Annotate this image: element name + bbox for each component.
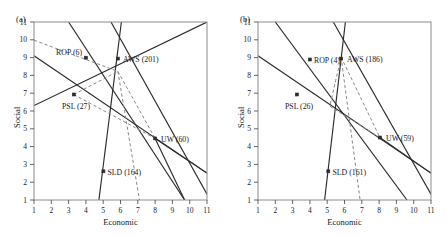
data-point-sld[interactable] (102, 170, 105, 173)
data-point-sld[interactable] (327, 170, 330, 173)
data-point-aws[interactable] (116, 57, 119, 60)
panel-a-xaxis: 1 2 3 4 5 6 7 8 9 10 11 (32, 200, 211, 215)
svg-text:5: 5 (101, 206, 105, 215)
svg-text:4: 4 (308, 206, 312, 215)
data-point-uw[interactable] (154, 137, 157, 140)
panel-b-xaxis: 1 2 3 4 5 6 7 8 9 10 11 (256, 200, 435, 215)
point-label-uw: UW (60) (161, 135, 189, 144)
line-solid (34, 22, 207, 106)
point-label-aws: AWS (201) (123, 55, 159, 64)
svg-text:2: 2 (247, 178, 251, 187)
point-label-rop: ROP (6) (56, 48, 82, 57)
svg-text:1: 1 (32, 206, 36, 215)
svg-text:1: 1 (247, 196, 251, 205)
svg-text:6: 6 (247, 107, 251, 116)
point-label-sld: SLD (164) (108, 168, 142, 177)
svg-text:6: 6 (23, 107, 27, 116)
svg-text:10: 10 (19, 35, 27, 44)
svg-text:3: 3 (23, 160, 27, 169)
svg-text:9: 9 (171, 206, 175, 215)
point-label-uw: UW (59) (386, 134, 414, 143)
line-dashed (341, 57, 360, 200)
svg-text:2: 2 (49, 206, 53, 215)
svg-text:8: 8 (153, 206, 157, 215)
data-point-aws[interactable] (340, 57, 343, 60)
svg-text:4: 4 (247, 142, 251, 151)
svg-text:7: 7 (247, 89, 251, 98)
svg-text:9: 9 (247, 53, 251, 62)
svg-text:8: 8 (247, 71, 251, 80)
data-point-psl[interactable] (72, 93, 75, 96)
panel-a-xlabel: Economic (34, 217, 207, 227)
point-label-sld: SLD (161) (333, 168, 367, 177)
svg-text:7: 7 (136, 206, 140, 215)
svg-text:11: 11 (203, 206, 211, 215)
svg-text:7: 7 (23, 89, 27, 98)
svg-text:6: 6 (343, 206, 347, 215)
data-point-rop[interactable] (308, 58, 311, 61)
svg-text:4: 4 (23, 142, 27, 151)
svg-text:10: 10 (410, 206, 418, 215)
svg-text:5: 5 (247, 124, 251, 133)
svg-text:1: 1 (23, 196, 27, 205)
svg-text:9: 9 (23, 53, 27, 62)
panel-b-ylabel: Social (236, 107, 246, 128)
svg-text:4: 4 (84, 206, 88, 215)
point-label-psl: PSL (27) (62, 102, 90, 111)
panel-a-ylabel: Social (12, 107, 22, 128)
svg-text:3: 3 (291, 206, 295, 215)
svg-text:11: 11 (427, 206, 435, 215)
point-label-aws: AWS (186) (347, 55, 383, 64)
panel-b-xlabel: Economic (258, 217, 431, 227)
svg-text:8: 8 (377, 206, 381, 215)
point-label-psl: PSL (26) (285, 102, 313, 111)
panel-b-plot: 1 2 3 4 5 6 7 8 9 10 11 1 2 3 4 5 6 7 8 (224, 0, 447, 237)
svg-text:10: 10 (186, 206, 194, 215)
svg-text:7: 7 (360, 206, 364, 215)
point-label-rop: ROP (4) (314, 56, 340, 65)
svg-text:6: 6 (119, 206, 123, 215)
svg-text:2: 2 (273, 206, 277, 215)
panel-a-plot: 1 2 3 4 5 6 7 8 9 10 11 1 2 3 4 5 6 7 (0, 0, 223, 237)
panel-a: (a) 1 (0, 0, 223, 237)
data-point-uw[interactable] (379, 136, 382, 139)
panel-b-points: ROP (4) AWS (186) PSL (26) UW (59) SLD (… (285, 55, 414, 177)
figure-container: (a) 1 (0, 0, 447, 237)
svg-text:10: 10 (243, 35, 251, 44)
svg-text:1: 1 (256, 206, 260, 215)
svg-text:3: 3 (67, 206, 71, 215)
data-point-psl[interactable] (295, 93, 298, 96)
svg-text:9: 9 (395, 206, 399, 215)
svg-text:3: 3 (247, 160, 251, 169)
svg-text:5: 5 (23, 124, 27, 133)
svg-text:11: 11 (20, 18, 28, 27)
svg-text:11: 11 (244, 18, 252, 27)
svg-text:2: 2 (23, 178, 27, 187)
panel-a-points: ROP (6) AWS (201) PSL (27) UW (60) SLD (… (56, 48, 189, 177)
data-point-rop[interactable] (84, 56, 87, 59)
panel-b: (b) 1 2 3 4 5 (224, 0, 447, 237)
line-dashed (118, 71, 140, 200)
svg-text:8: 8 (23, 71, 27, 80)
svg-text:5: 5 (325, 206, 329, 215)
